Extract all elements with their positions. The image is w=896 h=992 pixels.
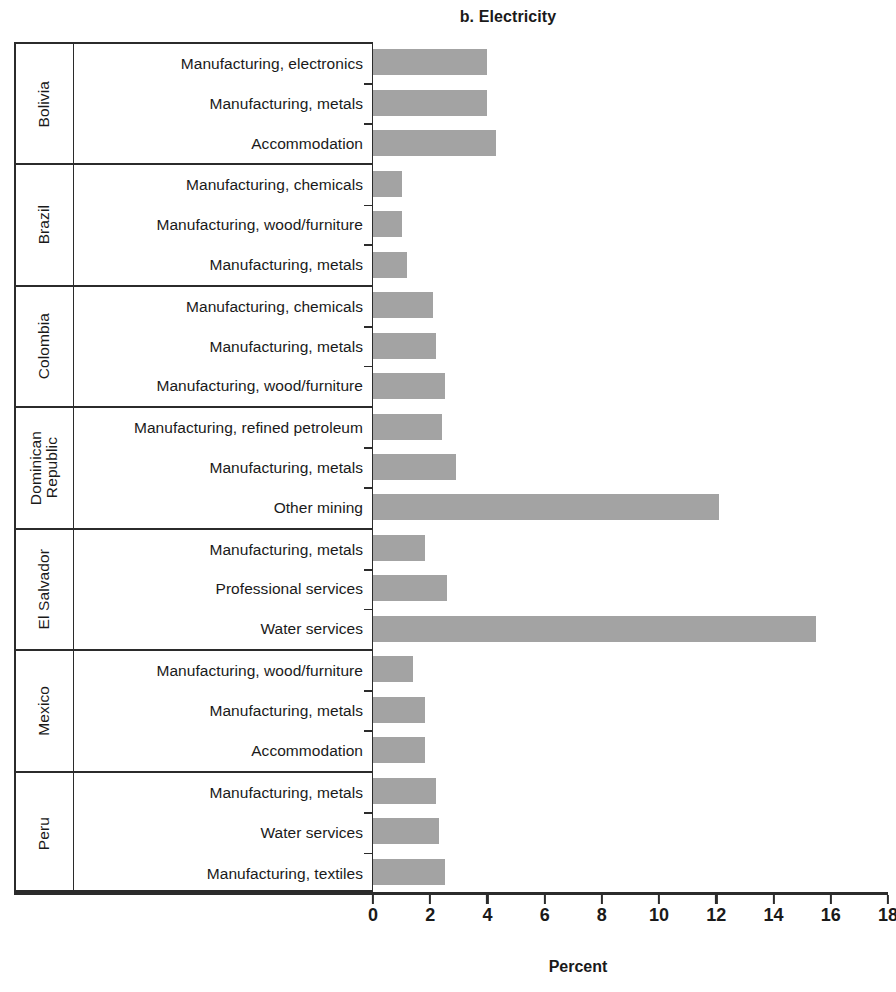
bar — [373, 211, 402, 237]
x-tick — [372, 895, 374, 904]
bar-row — [373, 244, 888, 284]
x-tick-label: 8 — [597, 905, 607, 926]
category-label: Manufacturing, metals — [74, 530, 372, 570]
x-tick — [486, 895, 488, 904]
x-tick — [658, 895, 660, 904]
x-tick — [601, 895, 603, 904]
bar-row — [373, 528, 888, 568]
country-name-cell: Bolivia — [16, 44, 74, 163]
bar-row — [373, 649, 888, 689]
country-name-label: Bolivia — [36, 81, 52, 127]
category-label: Manufacturing, refined petroleum — [74, 408, 372, 448]
category-label: Manufacturing, wood/furniture — [74, 651, 372, 691]
category-label: Water services — [74, 609, 372, 649]
bar — [373, 737, 425, 763]
category-label: Manufacturing, metals — [74, 691, 372, 731]
category-label-table: BoliviaManufacturing, electronicsManufac… — [14, 42, 373, 892]
x-tick-label: 2 — [425, 905, 435, 926]
category-label: Manufacturing, electronics — [74, 44, 372, 84]
bar — [373, 373, 445, 399]
category-label: Professional services — [74, 570, 372, 610]
bar — [373, 171, 402, 197]
bar-row — [373, 325, 888, 365]
bar-row — [373, 204, 888, 244]
country-name-label: Mexico — [36, 686, 52, 736]
country-name-cell: Brazil — [16, 165, 74, 284]
category-rows: Manufacturing, electronicsManufacturing,… — [74, 44, 372, 163]
bar — [373, 778, 436, 804]
bar — [373, 494, 719, 520]
category-label: Manufacturing, metals — [74, 84, 372, 124]
bar-row — [373, 811, 888, 851]
bar — [373, 90, 487, 116]
category-rows: Manufacturing, chemicalsManufacturing, m… — [74, 287, 372, 406]
bar-group — [373, 406, 888, 527]
x-axis-ticks: 024681012141618 — [373, 892, 888, 895]
bar — [373, 616, 816, 642]
x-tick — [887, 895, 889, 904]
country-name-label: Dominican Republic — [28, 431, 61, 505]
country-name-cell: Colombia — [16, 287, 74, 406]
bar — [373, 333, 436, 359]
x-tick — [830, 895, 832, 904]
x-tick-label: 10 — [649, 905, 669, 926]
country-group: MexicoManufacturing, wood/furnitureManuf… — [16, 651, 372, 772]
bar-group — [373, 649, 888, 770]
bar — [373, 697, 425, 723]
chart-title: b. Electricity — [0, 8, 896, 26]
x-tick — [715, 895, 717, 904]
category-rows: Manufacturing, wood/furnitureManufacturi… — [74, 651, 372, 770]
bar — [373, 414, 442, 440]
country-name-label: Brazil — [36, 205, 52, 244]
country-name-cell: Mexico — [16, 651, 74, 770]
category-label: Manufacturing, metals — [74, 245, 372, 285]
bar — [373, 656, 413, 682]
bar — [373, 130, 496, 156]
country-group: ColombiaManufacturing, chemicalsManufact… — [16, 287, 372, 408]
bar-row — [373, 771, 888, 811]
category-label: Accommodation — [74, 124, 372, 164]
category-label: Manufacturing, metals — [74, 448, 372, 488]
category-label: Manufacturing, metals — [74, 327, 372, 367]
category-label: Manufacturing, textiles — [74, 853, 372, 893]
bar — [373, 292, 433, 318]
x-tick-label: 14 — [764, 905, 784, 926]
bar-row — [373, 690, 888, 730]
category-rows: Manufacturing, metalsWater servicesManuf… — [74, 773, 372, 894]
chart-root: b. Electricity BoliviaManufacturing, ele… — [0, 0, 896, 992]
bar-group — [373, 285, 888, 406]
country-group: BrazilManufacturing, chemicalsManufactur… — [16, 165, 372, 286]
category-label: Manufacturing, chemicals — [74, 287, 372, 327]
plot-area: BoliviaManufacturing, electronicsManufac… — [14, 42, 888, 892]
category-rows: Manufacturing, metalsProfessional servic… — [74, 530, 372, 649]
bar-row — [373, 82, 888, 122]
bars-panel — [373, 42, 888, 892]
x-tick — [772, 895, 774, 904]
category-label: Manufacturing, wood/furniture — [74, 366, 372, 406]
x-tick — [544, 895, 546, 904]
bar-row — [373, 42, 888, 82]
bar-row — [373, 163, 888, 203]
bar-group — [373, 42, 888, 163]
x-tick-label: 6 — [540, 905, 550, 926]
bar-group — [373, 528, 888, 649]
country-name-label: Peru — [36, 817, 52, 850]
bar — [373, 859, 445, 885]
category-label: Accommodation — [74, 731, 372, 771]
bar-row — [373, 285, 888, 325]
country-name-cell: El Salvador — [16, 530, 74, 649]
country-name-cell: Peru — [16, 773, 74, 894]
bar — [373, 49, 487, 75]
category-label: Other mining — [74, 488, 372, 528]
country-name-label: Colombia — [36, 313, 52, 379]
bar — [373, 252, 407, 278]
category-rows: Manufacturing, chemicalsManufacturing, w… — [74, 165, 372, 284]
bar — [373, 454, 456, 480]
bar-row — [373, 447, 888, 487]
bar-row — [373, 730, 888, 770]
category-label: Manufacturing, wood/furniture — [74, 205, 372, 245]
x-tick — [429, 895, 431, 904]
bar — [373, 535, 425, 561]
bar-row — [373, 568, 888, 608]
bar-row — [373, 851, 888, 891]
